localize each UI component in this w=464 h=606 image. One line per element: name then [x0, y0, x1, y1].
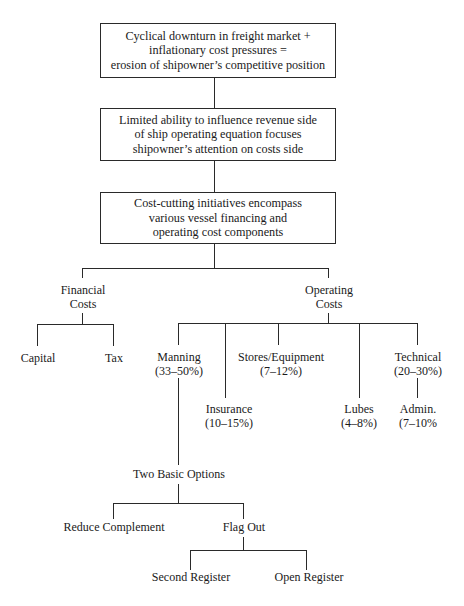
drop-second-register	[190, 550, 191, 570]
connector-2-3	[214, 161, 215, 192]
drop-flag-out	[243, 503, 244, 519]
drop-tax	[113, 324, 114, 346]
box-cost-cutting: Cost-cutting initiatives encompass vario…	[100, 192, 336, 244]
drop-capital	[37, 324, 38, 346]
split-horizontal	[82, 268, 329, 269]
drop-manning	[178, 323, 179, 345]
drop-reduce-complement	[113, 503, 114, 519]
box-market-downturn: Cyclical downturn in freight market + in…	[100, 23, 336, 78]
box-3-line-2: various vessel financing and	[149, 211, 287, 226]
flag-out-stem	[243, 537, 244, 550]
open-register-label: Open Register	[275, 571, 344, 585]
options-stem	[178, 484, 179, 503]
drop-insurance	[225, 323, 226, 398]
connector-1-2	[214, 78, 215, 108]
operating-costs-label: Operating Costs	[305, 284, 353, 311]
tax-label: Tax	[105, 352, 123, 366]
capital-label: Capital	[21, 352, 56, 366]
lubes-label: Lubes (4–8%)	[341, 403, 377, 430]
two-basic-options-label: Two Basic Options	[133, 468, 225, 482]
second-register-label: Second Register	[152, 571, 230, 585]
drop-stores	[278, 323, 279, 345]
box-2-line-3: shipowner’s attention on costs side	[133, 142, 303, 157]
drop-technical	[417, 323, 418, 345]
box-2-line-1: Limited ability to influence revenue sid…	[119, 113, 317, 128]
drop-operating	[328, 268, 329, 278]
technical-label: Technical (20–30%)	[394, 351, 442, 378]
drop-lubes	[359, 323, 360, 398]
registers-horizontal	[190, 550, 307, 551]
options-horizontal	[113, 503, 244, 504]
stores-equipment-label: Stores/Equipment (7–12%)	[238, 351, 324, 378]
drop-open-register	[306, 550, 307, 570]
box-3-line-1: Cost-cutting initiatives encompass	[134, 196, 302, 211]
manning-options-stem	[178, 378, 179, 465]
financial-horizontal	[37, 324, 114, 325]
financial-costs-label: Financial Costs	[61, 284, 106, 311]
flag-out-label: Flag Out	[223, 521, 265, 535]
manning-label: Manning (33–50%)	[155, 351, 203, 378]
box-revenue-limits: Limited ability to influence revenue sid…	[100, 108, 336, 161]
operating-horizontal	[178, 323, 418, 324]
insurance-label: Insurance (10–15%)	[205, 403, 253, 430]
operating-stem	[328, 313, 329, 323]
drop-financial	[82, 268, 83, 278]
reduce-complement-label: Reduce Complement	[64, 521, 165, 535]
box-3-line-3: operating cost components	[153, 225, 284, 240]
box-1-line-2: inflationary cost pressures =	[149, 43, 287, 58]
admin-label: Admin. (7–10%	[399, 403, 437, 430]
box-1-line-3: erosion of shipowner’s competitive posit…	[111, 58, 325, 73]
connector-3-split	[214, 244, 215, 268]
box-2-line-2: of ship operating equation focuses	[134, 127, 301, 142]
technical-admin-connector	[417, 378, 418, 398]
financial-stem	[82, 313, 83, 324]
box-1-line-1: Cyclical downturn in freight market +	[125, 29, 310, 44]
